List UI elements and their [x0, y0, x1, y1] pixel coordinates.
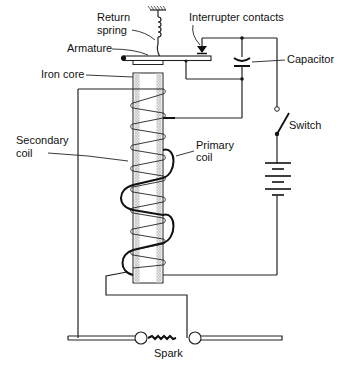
interrupter-contacts — [197, 38, 207, 54]
svg-text:Switch: Switch — [289, 119, 321, 131]
iron-core — [133, 73, 163, 283]
svg-text:Primary: Primary — [196, 139, 234, 151]
label-armature: Armature — [67, 42, 148, 55]
label-interrupter-contacts: Interrupter contacts — [189, 11, 284, 45]
svg-text:coil: coil — [16, 147, 33, 159]
label-primary-coil: Primary coil — [176, 139, 234, 163]
svg-text:Interrupter contacts: Interrupter contacts — [189, 11, 284, 23]
svg-text:Secondary: Secondary — [16, 134, 69, 146]
svg-text:spring: spring — [97, 24, 127, 36]
spark-gap — [68, 332, 282, 344]
svg-text:Capacitor: Capacitor — [287, 53, 334, 65]
capacitor-circuit — [163, 36, 277, 118]
svg-text:Iron core: Iron core — [41, 68, 84, 80]
svg-text:Armature: Armature — [67, 42, 112, 54]
induction-coil-diagram: Return spring Interrupter contacts Armat… — [0, 0, 343, 370]
battery — [163, 163, 291, 275]
label-iron-core: Iron core — [41, 68, 133, 80]
armature — [121, 55, 211, 64]
label-return-spring: Return spring — [97, 11, 155, 40]
svg-text:Spark: Spark — [154, 347, 183, 359]
label-switch: Switch — [289, 119, 321, 131]
return-spring — [148, 6, 166, 57]
label-capacitor: Capacitor — [252, 53, 334, 65]
svg-text:Return: Return — [97, 11, 130, 23]
label-spark: Spark — [154, 347, 183, 359]
svg-text:coil: coil — [196, 151, 213, 163]
label-secondary-coil: Secondary coil — [16, 134, 128, 161]
